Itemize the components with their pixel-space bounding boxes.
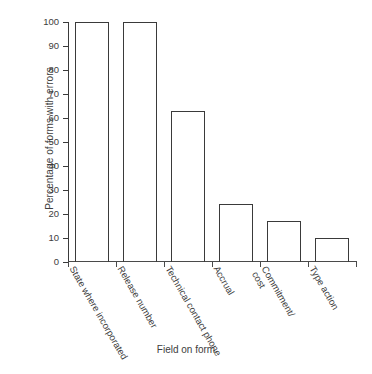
- x-axis-category-label: Type action: [307, 264, 341, 312]
- x-axis-category-label: Release number: [115, 264, 159, 330]
- y-tick: 30: [63, 190, 68, 191]
- bar: [123, 22, 158, 262]
- y-tick-label: 30: [48, 183, 59, 196]
- x-axis-title: Field on form: [0, 344, 372, 355]
- x-axis-category-label: Commitment/ cost: [250, 264, 297, 324]
- y-tick-label: 70: [48, 87, 59, 100]
- y-tick: 40: [63, 166, 68, 167]
- y-tick-label: 10: [48, 231, 59, 244]
- y-axis-line: [68, 22, 69, 262]
- y-tick: 10: [63, 238, 68, 239]
- y-tick: 20: [63, 214, 68, 215]
- y-tick-label: 100: [43, 15, 59, 28]
- bar: [171, 111, 206, 262]
- bar: [75, 22, 110, 262]
- y-tick: 50: [63, 142, 68, 143]
- y-tick: 70: [63, 94, 68, 95]
- y-tick: 90: [63, 46, 68, 47]
- y-tick: 100: [63, 22, 68, 23]
- plot-area: 0102030405060708090100: [68, 22, 356, 262]
- x-axis-category-labels: State where incorporatedRelease numberTe…: [68, 262, 368, 342]
- y-tick-label: 60: [48, 111, 59, 124]
- y-tick: 60: [63, 118, 68, 119]
- y-tick-label: 90: [48, 39, 59, 52]
- y-tick-label: 0: [54, 255, 59, 268]
- bar: [267, 221, 302, 262]
- y-tick-label: 80: [48, 63, 59, 76]
- y-tick-label: 40: [48, 159, 59, 172]
- bar-chart-figure: Percentage of forms with errors 01020304…: [0, 0, 372, 374]
- x-axis-category-label: Accrual: [211, 264, 236, 297]
- bar: [315, 238, 350, 262]
- y-tick-label: 20: [48, 207, 59, 220]
- bar: [219, 204, 254, 262]
- y-tick: 80: [63, 70, 68, 71]
- y-tick-label: 50: [48, 135, 59, 148]
